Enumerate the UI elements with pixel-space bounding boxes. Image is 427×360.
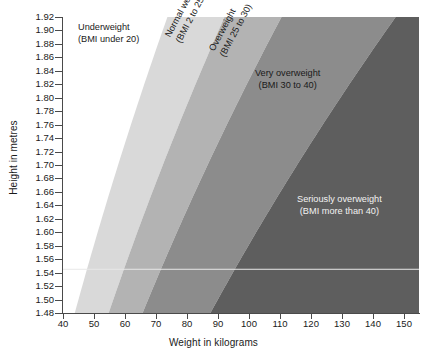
x-tick-label: 60 — [108, 319, 142, 329]
x-axis-title: Weight in kilograms — [0, 337, 427, 348]
x-tick-label: 90 — [201, 319, 235, 329]
y-tick-label: 1.74 — [24, 133, 54, 143]
y-tick-label-wrap: 1.62 — [16, 214, 54, 224]
label-very-overweight: Very overweight (BMI 30 to 40) — [255, 68, 320, 91]
bmi-bands — [63, 17, 419, 313]
y-tick — [55, 313, 62, 314]
y-tick-label-wrap: 1.54 — [16, 268, 54, 278]
y-tick-label: 1.48 — [24, 308, 54, 318]
y-tick-label-wrap: 1.78 — [16, 106, 54, 116]
y-tick-label-wrap: 1.72 — [16, 147, 54, 157]
x-tick-label: 40 — [46, 319, 80, 329]
y-tick-label: 1.92 — [24, 12, 54, 22]
y-tick-label-wrap: 1.90 — [16, 25, 54, 35]
y-tick — [55, 111, 62, 112]
label-underweight-line2: (BMI under 20) — [78, 34, 139, 46]
y-tick — [55, 219, 62, 220]
y-tick-label-wrap: 1.52 — [16, 281, 54, 291]
label-very-overweight-line1: Very overweight — [255, 68, 320, 78]
y-tick-label-wrap: 1.80 — [16, 93, 54, 103]
y-tick-label-wrap: 1.48 — [16, 308, 54, 318]
y-tick — [55, 57, 62, 58]
y-tick-label: 1.60 — [24, 227, 54, 237]
y-tick — [55, 259, 62, 260]
y-tick-label-wrap: 1.64 — [16, 200, 54, 210]
y-tick — [55, 286, 62, 287]
x-tick-label: 130 — [325, 319, 359, 329]
label-seriously-overweight-line1: Seriously overweight — [297, 194, 382, 204]
y-axis-line — [62, 17, 63, 313]
y-tick-label-wrap: 1.84 — [16, 66, 54, 76]
y-tick-label: 1.88 — [24, 39, 54, 49]
y-tick-label-wrap: 1.60 — [16, 227, 54, 237]
y-tick-label: 1.86 — [24, 52, 54, 62]
y-tick-label: 1.58 — [24, 241, 54, 251]
x-tick-label: 140 — [356, 319, 390, 329]
label-very-overweight-line2: (BMI 30 to 40) — [255, 80, 320, 92]
y-tick — [55, 152, 62, 153]
y-tick-label: 1.90 — [24, 25, 54, 35]
bmi-chart: 1.481.501.521.541.561.581.601.621.641.66… — [0, 0, 427, 360]
y-tick-label: 1.52 — [24, 281, 54, 291]
y-tick — [55, 84, 62, 85]
y-tick — [55, 205, 62, 206]
y-tick — [55, 17, 62, 18]
y-tick-label-wrap: 1.68 — [16, 173, 54, 183]
y-tick-label: 1.76 — [24, 120, 54, 130]
y-tick-label: 1.82 — [24, 79, 54, 89]
y-tick — [55, 125, 62, 126]
y-tick-label: 1.50 — [24, 295, 54, 305]
x-tick-label: 100 — [232, 319, 266, 329]
x-tick-label: 80 — [170, 319, 204, 329]
y-tick-label-wrap: 1.88 — [16, 39, 54, 49]
x-tick-label: 120 — [294, 319, 328, 329]
y-tick — [55, 232, 62, 233]
y-tick-label-wrap: 1.74 — [16, 133, 54, 143]
y-tick-label: 1.62 — [24, 214, 54, 224]
y-tick-label: 1.84 — [24, 66, 54, 76]
x-tick-label: 50 — [77, 319, 111, 329]
y-tick — [55, 165, 62, 166]
y-tick — [55, 30, 62, 31]
y-tick-label-wrap: 1.58 — [16, 241, 54, 251]
y-tick — [55, 138, 62, 139]
y-tick-label: 1.70 — [24, 160, 54, 170]
y-tick-label: 1.64 — [24, 200, 54, 210]
y-tick-label-wrap: 1.50 — [16, 295, 54, 305]
label-seriously-overweight: Seriously overweight (BMI more than 40) — [297, 194, 382, 217]
y-axis-title: Height in metres — [8, 98, 19, 218]
y-tick — [55, 178, 62, 179]
y-tick-label-wrap: 1.76 — [16, 120, 54, 130]
y-tick-label-wrap: 1.66 — [16, 187, 54, 197]
x-tick-label: 150 — [387, 319, 421, 329]
y-tick-label: 1.80 — [24, 93, 54, 103]
x-axis-line — [62, 313, 420, 314]
label-seriously-overweight-line2: (BMI more than 40) — [297, 206, 382, 218]
y-tick-label-wrap: 1.56 — [16, 254, 54, 264]
y-tick — [55, 192, 62, 193]
label-underweight: Underweight (BMI under 20) — [78, 22, 139, 45]
y-tick-label: 1.66 — [24, 187, 54, 197]
y-tick — [55, 98, 62, 99]
y-tick — [55, 246, 62, 247]
y-tick — [55, 44, 62, 45]
x-tick-label: 70 — [139, 319, 173, 329]
y-tick-label: 1.56 — [24, 254, 54, 264]
y-tick-label-wrap: 1.82 — [16, 79, 54, 89]
y-tick-label-wrap: 1.92 — [16, 12, 54, 22]
label-underweight-line1: Underweight — [78, 22, 130, 32]
y-tick — [55, 71, 62, 72]
y-tick-label-wrap: 1.86 — [16, 52, 54, 62]
x-tick-label: 110 — [263, 319, 297, 329]
y-tick — [55, 300, 62, 301]
y-tick-label: 1.68 — [24, 173, 54, 183]
y-tick-label: 1.54 — [24, 268, 54, 278]
y-tick-label: 1.72 — [24, 147, 54, 157]
plot-area — [63, 17, 419, 313]
y-tick-label-wrap: 1.70 — [16, 160, 54, 170]
y-tick — [55, 273, 62, 274]
y-tick-label: 1.78 — [24, 106, 54, 116]
